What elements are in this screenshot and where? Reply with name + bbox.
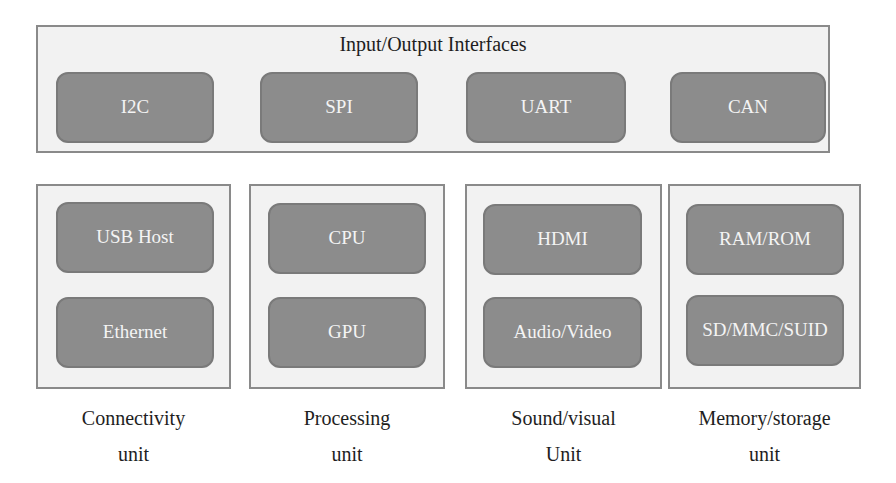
sound-visual-label-line2: Unit <box>465 436 662 472</box>
ram-rom-block: RAM/ROM <box>686 204 844 275</box>
io-interfaces-title: Input/Output Interfaces <box>38 33 828 56</box>
connectivity-unit-label: Connectivity unit <box>36 400 231 472</box>
usb-host-block: USB Host <box>56 202 214 273</box>
audio-video-block: Audio/Video <box>483 297 642 368</box>
gpu-block: GPU <box>268 297 426 368</box>
processing-label-line1: Processing <box>249 400 445 436</box>
processing-unit-label: Processing unit <box>249 400 445 472</box>
memory-storage-label-line1: Memory/storage <box>668 400 861 436</box>
can-block: CAN <box>670 72 826 143</box>
spi-block: SPI <box>260 72 418 143</box>
uart-block: UART <box>466 72 626 143</box>
connectivity-label-line1: Connectivity <box>36 400 231 436</box>
connectivity-label-line2: unit <box>36 436 231 472</box>
hdmi-block: HDMI <box>483 204 642 275</box>
processing-unit-group: CPU GPU <box>249 184 445 389</box>
sound-visual-unit-group: HDMI Audio/Video <box>465 184 662 389</box>
connectivity-unit-group: USB Host Ethernet <box>36 184 231 389</box>
ethernet-block: Ethernet <box>56 297 214 368</box>
memory-storage-unit-group: RAM/ROM SD/MMC/SUID <box>668 184 861 389</box>
sound-visual-label-line1: Sound/visual <box>465 400 662 436</box>
sd-mmc-suid-block: SD/MMC/SUID <box>686 295 844 366</box>
memory-storage-label-line2: unit <box>668 436 861 472</box>
cpu-block: CPU <box>268 203 426 274</box>
processing-label-line2: unit <box>249 436 445 472</box>
i2c-block: I2C <box>56 72 214 143</box>
memory-storage-unit-label: Memory/storage unit <box>668 400 861 472</box>
io-interfaces-group: Input/Output Interfaces I2C SPI UART CAN <box>36 25 830 153</box>
sound-visual-unit-label: Sound/visual Unit <box>465 400 662 472</box>
